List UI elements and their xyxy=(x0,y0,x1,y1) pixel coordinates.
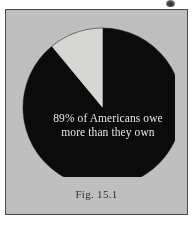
smudge-icon xyxy=(166,0,175,7)
figure-container: 89% of Americans owe more than they own … xyxy=(0,0,195,225)
figure-frame: 89% of Americans owe more than they own … xyxy=(5,9,188,215)
figure-caption: Fig. 15.1 xyxy=(6,188,187,200)
pie-chart-svg xyxy=(17,15,175,177)
pie-chart: 89% of Americans owe more than they own xyxy=(17,15,175,177)
